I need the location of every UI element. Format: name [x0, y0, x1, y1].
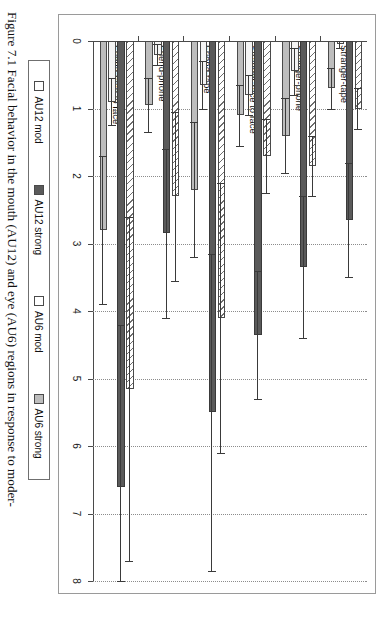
bar-group: Friend-phone — [139, 41, 185, 581]
x-axis-tick — [88, 581, 93, 582]
error-bar-cap-high — [217, 453, 225, 454]
error-bar-cap-low — [254, 271, 262, 272]
error-bar — [257, 271, 258, 399]
bar-au12mod — [218, 41, 225, 318]
group-separator-tick — [183, 36, 184, 41]
bar-au6mod — [291, 41, 298, 71]
bar-au6strong — [282, 41, 289, 136]
error-bar — [211, 254, 212, 571]
error-bar-cap-low — [336, 41, 344, 42]
error-bar — [120, 325, 121, 582]
error-bar-cap-low — [144, 78, 152, 79]
error-bar — [239, 85, 240, 146]
legend-item-au12mod: AU12 mod — [34, 81, 45, 143]
x-axis-tick-label: 4 — [71, 308, 82, 314]
bar-group: Stranger-phone — [276, 41, 322, 581]
bar-au6strong — [191, 41, 198, 190]
error-bar-cap-high — [308, 196, 316, 197]
error-bar-cap-low — [262, 119, 270, 120]
error-bar — [294, 48, 295, 95]
error-bar-cap-low — [117, 325, 125, 326]
legend-label: AU6 strong — [34, 409, 45, 459]
legend-item-au6mod: AU6 mod — [34, 296, 45, 353]
bar-au12mod — [126, 41, 133, 389]
error-bar-cap-high — [327, 109, 335, 110]
error-bar — [248, 75, 249, 116]
error-bar — [111, 78, 112, 125]
group-separator-tick — [138, 36, 139, 41]
error-bar-cap-high — [99, 304, 107, 305]
error-bar-cap-low — [217, 183, 225, 184]
error-bar-cap-high — [345, 277, 353, 278]
figure-caption: Figure 7.1 Facial behavior in the mouth … — [0, 12, 22, 612]
rotated-figure-container: 012345678Stranger-tapeStranger-phoneStra… — [0, 0, 388, 627]
error-bar-cap-low — [190, 122, 198, 123]
legend-swatch-icon-au12strong — [34, 185, 44, 195]
error-bar-cap-high — [245, 115, 253, 116]
error-bar-cap-high — [171, 281, 179, 282]
bar-au6mod — [200, 41, 207, 85]
bar-au12strong — [254, 41, 261, 335]
group-separator-tick — [320, 36, 321, 41]
error-bar-cap-high — [236, 146, 244, 147]
figure-page: 012345678Stranger-tapeStranger-phoneStra… — [0, 0, 388, 627]
error-bar-cap-high — [125, 561, 133, 562]
gridline — [93, 581, 367, 583]
error-bar-cap-low — [327, 68, 335, 69]
x-axis-tick-label: 1 — [71, 106, 82, 112]
error-bar-cap-low — [171, 112, 179, 113]
caption-line-2: ately funny stimuli in the presence of a… — [0, 12, 3, 612]
error-bar — [312, 136, 313, 197]
error-bar-cap-high — [281, 173, 289, 174]
error-bar — [166, 149, 167, 318]
error-bar-cap-high — [162, 318, 170, 319]
error-bar — [303, 196, 304, 338]
error-bar-cap-low — [208, 254, 216, 255]
error-bar — [175, 112, 176, 281]
legend-item-au12strong: AU12 strong — [34, 185, 45, 256]
error-bar-cap-low — [345, 163, 353, 164]
error-bar-cap-high — [262, 193, 270, 194]
bar-au6mod — [108, 41, 115, 102]
error-bar-cap-high — [254, 399, 262, 400]
chart-plot-frame: 012345678Stranger-tapeStranger-phoneStra… — [58, 14, 376, 594]
error-bar-cap-low — [354, 88, 362, 89]
error-bar-cap-high — [199, 109, 207, 110]
error-bar-cap-low — [245, 75, 253, 76]
error-bar — [357, 88, 358, 129]
bar-au6strong — [237, 41, 244, 115]
error-bar — [194, 122, 195, 257]
error-bar-cap-low — [153, 44, 161, 45]
x-axis-tick-label: 6 — [71, 443, 82, 449]
error-bar — [102, 156, 103, 305]
bar-group: Stranger-face to face — [230, 41, 276, 581]
error-bar-cap-high — [117, 581, 125, 582]
bar-au12strong — [209, 41, 216, 412]
legend-swatch-icon-au6strong — [34, 394, 44, 404]
chart-legend: AU12 modAU12 strongAU6 modAU6 strong — [28, 60, 50, 480]
error-bar-cap-low — [290, 48, 298, 49]
error-bar — [129, 217, 130, 561]
error-bar-cap-low — [99, 156, 107, 157]
error-bar-cap-high — [153, 65, 161, 66]
error-bar-cap-high — [290, 95, 298, 96]
bar-au12mod — [263, 41, 270, 156]
legend-swatch-icon-au6mod — [34, 296, 44, 306]
error-bar-cap-low — [125, 217, 133, 218]
bar-au6mod — [245, 41, 252, 95]
bar-au12mod — [355, 41, 362, 109]
bar-au12strong — [117, 41, 124, 487]
x-axis-tick-label: 8 — [71, 578, 82, 584]
caption-line-1: Figure 7.1 Facial behavior in the mouth … — [5, 12, 20, 507]
legend-item-au6strong: AU6 strong — [34, 394, 45, 459]
chart-plot: 012345678Stranger-tapeStranger-phoneStra… — [59, 15, 375, 593]
error-bar-cap-high — [299, 338, 307, 339]
error-bar-cap-low — [308, 136, 316, 137]
error-bar — [266, 119, 267, 193]
error-bar-cap-high — [108, 125, 116, 126]
error-bar-cap-low — [236, 85, 244, 86]
bar-au12strong — [300, 41, 307, 267]
error-bar — [331, 68, 332, 109]
error-bar-cap-low — [162, 149, 170, 150]
x-axis-tick-label: 7 — [71, 511, 82, 517]
